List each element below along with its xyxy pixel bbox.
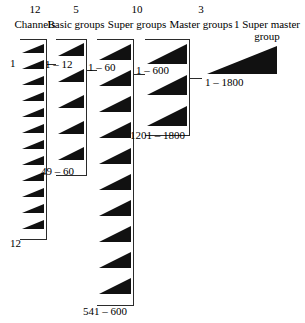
column-count-basic-groups: 5 (44, 3, 108, 15)
range-basic-groups-top: 1 – 12 (45, 58, 73, 70)
range-super-master-group-top: 1 – 1800 (205, 76, 244, 88)
fdm-hierarchy-diagram: 12 Channels 5 Basic groups 10 Super grou… (0, 0, 305, 323)
triangle-super-master-group-1 (207, 46, 277, 74)
range-super-groups-bottom: 541 – 600 (83, 305, 127, 317)
range-channels-top: 1 (10, 57, 16, 69)
range-master-groups-top: 1 – 600 (136, 64, 169, 76)
range-super-groups-top: 1 – 60 (88, 61, 116, 73)
column-count-master-groups: 3 (166, 3, 236, 15)
column-title-super-groups: Super groups (103, 18, 171, 30)
column-title-super-master-group: 1 Super master group (232, 18, 302, 42)
column-title-basic-groups: Basic groups (44, 18, 108, 30)
connector-master-to-super-master-group (189, 78, 202, 79)
range-master-groups-bottom: 1201 – 1800 (130, 129, 185, 141)
column-title-master-groups: Master groups (166, 18, 236, 30)
range-channels-bottom: 12 (10, 237, 21, 249)
column-count-super-groups: 10 (103, 3, 171, 15)
range-basic-groups-bottom: 49 – 60 (41, 165, 74, 177)
